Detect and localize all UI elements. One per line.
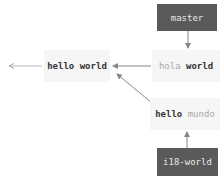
commit-word: world	[80, 61, 107, 71]
commit-word-changed: hola	[159, 61, 181, 71]
commit-word: world	[186, 61, 213, 71]
commit-hola-world: hola world	[152, 50, 220, 82]
ref-master: master	[157, 4, 217, 31]
ref-i18-world-label: i18-world	[163, 157, 212, 167]
commit-hello-mundo: hello mundo	[150, 98, 220, 130]
commit-word: hello	[155, 109, 182, 119]
ref-i18-world: i18-world	[157, 148, 218, 176]
commit-hello-world: hello world	[44, 50, 110, 82]
commit-word: hello	[47, 61, 74, 71]
arrow-mundo-to-hello	[117, 74, 152, 103]
ref-master-label: master	[171, 13, 204, 23]
commit-word-changed: mundo	[188, 109, 215, 119]
